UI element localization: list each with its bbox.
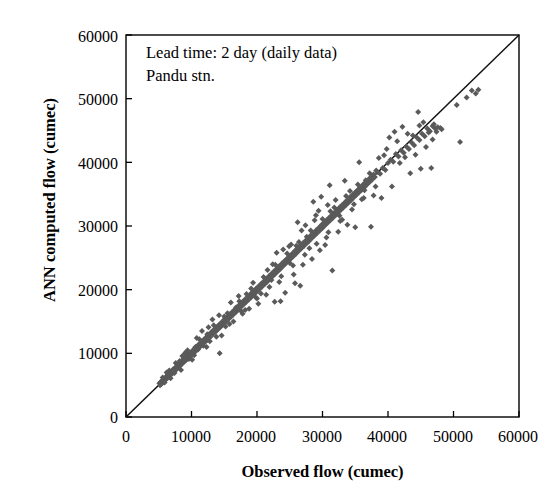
scatter-point [335,229,341,235]
scatter-point [399,124,405,130]
scatter-point [423,144,429,150]
scatter-point [228,299,234,305]
scatter-point [263,292,269,298]
scatter-point [389,184,395,190]
scatter-point [199,328,205,334]
scatter-point [206,324,212,330]
scatter-point [394,138,400,144]
scatter-point [327,182,333,188]
scatter-point [216,312,222,318]
scatter-point [386,135,392,141]
scatter-point [302,222,308,228]
scatter-point [402,154,408,160]
scatter-point [209,317,215,323]
scatter-point [278,273,284,279]
scatter-point [405,131,411,137]
scatter-point [342,178,348,184]
scatter-point [418,166,424,172]
scatter-point [454,102,460,108]
scatter-point [397,160,403,166]
scatter-point [373,184,379,190]
scatter-point [292,280,298,286]
scatter-point [314,241,320,247]
scatter-point [325,202,331,208]
scatter-point [457,139,463,145]
scatter-point [378,195,384,201]
scatter-point [306,245,312,251]
scatter-point [349,206,355,212]
scatter-point [317,247,323,253]
scatter-point [291,271,297,277]
scatter-point [297,283,303,289]
scatter-point [430,136,436,142]
scatter-point [318,194,324,200]
scatter-point [299,227,305,233]
scatter-point [282,290,288,296]
scatter-point [368,224,374,230]
plot-canvas [0,0,550,504]
scatter-point [295,219,301,225]
scatter-point [309,256,315,262]
scatter-point [376,155,382,161]
scatter-chart-figure: ANN computed flow (cumec) Observed flow … [0,0,550,504]
scatter-points [156,87,481,388]
scatter-point [272,299,278,305]
scatter-point [280,247,286,253]
scatter-point [413,152,419,158]
scatter-point [464,94,470,100]
scatter-point [278,298,284,304]
scatter-point [344,222,350,228]
scatter-point [384,146,390,152]
scatter-point [310,199,316,205]
scatter-point [250,280,256,286]
scatter-point [323,234,329,240]
scatter-point [312,217,318,223]
scatter-point [392,129,398,135]
scatter-point [264,267,270,273]
scatter-point [428,165,434,171]
scatter-point [276,279,282,285]
scatter-point [274,250,280,256]
scatter-point [300,262,306,268]
scatter-point [236,293,242,299]
scatter-point [302,252,308,258]
scatter-point [217,350,223,356]
scatter-point [329,268,335,274]
scatter-point [325,229,331,235]
scatter-point [219,333,225,339]
scatter-point [407,170,413,176]
scatter-point [381,152,387,158]
scatter-point [352,224,358,230]
scatter-point [322,242,328,248]
scatter-point [356,159,362,165]
scatter-point [333,197,339,203]
scatter-point [255,301,261,307]
scatter-point [371,192,377,198]
scatter-point [266,284,272,290]
scatter-point [415,109,421,115]
